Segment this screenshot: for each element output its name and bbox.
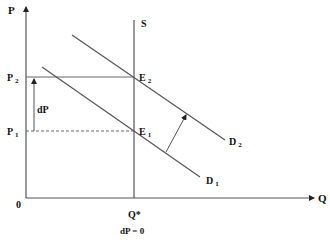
quantity-label: Q* xyxy=(128,209,141,220)
demand-shift-arrow xyxy=(166,115,186,152)
demand-curve-d2 xyxy=(72,35,225,140)
demand-curve-d1 xyxy=(42,67,200,177)
dp-label: dP xyxy=(37,104,49,115)
p2-label: P2 xyxy=(7,72,19,85)
e2-label: E2 xyxy=(139,72,152,85)
supply-label: S xyxy=(141,18,147,29)
y-axis-label: P xyxy=(8,4,15,16)
supply-demand-diagram: P Q 0 P2 P1 S E2 E1 D2 D1 dP Q* dP = 0 xyxy=(0,0,330,243)
d2-label: D2 xyxy=(229,136,242,149)
origin-label: 0 xyxy=(16,199,21,210)
p1-label: P1 xyxy=(7,126,19,139)
caption: dP = 0 xyxy=(120,226,145,236)
d1-label: D1 xyxy=(206,175,219,188)
e1-label: E1 xyxy=(139,126,152,139)
x-axis-label: Q xyxy=(318,192,327,204)
